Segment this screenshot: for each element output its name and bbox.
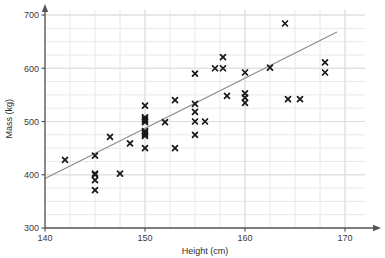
y-axis-tick-label: 300 xyxy=(24,223,39,233)
y-axis-tick-label: 500 xyxy=(24,117,39,127)
x-axis-tick-label: 170 xyxy=(337,233,352,243)
x-axis-tick-label: 150 xyxy=(137,233,152,243)
x-axis-tick-label: 160 xyxy=(237,233,252,243)
x-axis-title: Height (cm) xyxy=(182,246,229,256)
x-axis-tick-label: 140 xyxy=(37,233,52,243)
data-point-marker xyxy=(128,141,133,146)
data-point-marker xyxy=(298,97,303,102)
trend-line xyxy=(45,32,337,178)
data-point-marker xyxy=(225,93,230,98)
y-axis-arrowhead xyxy=(42,4,48,12)
axis-ticks: 300400500600700140150160170 xyxy=(24,10,353,243)
data-point-marker xyxy=(286,97,291,102)
scatter-plot-figure: 300400500600700140150160170Height (cm)Ma… xyxy=(0,0,385,258)
y-axis-tick-label: 600 xyxy=(24,64,39,74)
data-point-marker xyxy=(323,70,328,75)
data-point-marker xyxy=(283,21,288,26)
x-axis-arrowhead xyxy=(373,225,381,231)
y-axis-tick-label: 400 xyxy=(24,170,39,180)
data-point-marker xyxy=(163,120,168,125)
data-point-marker xyxy=(173,98,178,103)
data-point-marker xyxy=(323,60,328,65)
y-axis-tick-label: 700 xyxy=(24,10,39,20)
y-axis-title: Mass (kg) xyxy=(4,99,14,139)
plot-canvas: 300400500600700140150160170Height (cm)Ma… xyxy=(0,0,385,258)
axes xyxy=(42,4,381,231)
